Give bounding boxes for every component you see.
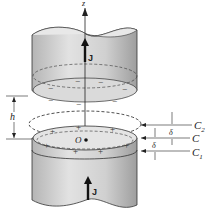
svg-text:−: − xyxy=(112,96,117,106)
svg-text:+: + xyxy=(98,146,103,156)
contour-labels: C2 C C1 δ δ xyxy=(141,112,205,161)
svg-text:−: − xyxy=(48,95,53,105)
svg-text:+: + xyxy=(76,122,81,132)
delta-lower-label: δ xyxy=(152,141,156,150)
diagram-canvas: − − − − − − − z J + + + + + + + O J xyxy=(0,0,210,217)
origin-point xyxy=(84,138,88,142)
svg-text:+: + xyxy=(124,140,129,150)
svg-text:+: + xyxy=(50,126,55,136)
current-label-lower: J xyxy=(92,187,97,197)
svg-text:−: − xyxy=(76,99,81,109)
contour-c1-label: C1 xyxy=(192,146,203,161)
gap-dimension: h xyxy=(6,96,32,139)
svg-text:−: − xyxy=(75,76,80,86)
origin-label: O xyxy=(75,135,82,145)
z-axis-label: z xyxy=(81,0,86,8)
current-label-upper: J xyxy=(88,53,93,63)
delta-upper-label: δ xyxy=(169,128,173,137)
svg-text:−: − xyxy=(98,77,103,87)
svg-text:−: − xyxy=(48,83,53,93)
svg-text:+: + xyxy=(110,124,115,134)
lower-cylinder xyxy=(32,126,137,207)
contour-c-label: C xyxy=(192,132,200,144)
svg-text:+: + xyxy=(44,140,49,150)
z-axis-arrowhead-icon xyxy=(82,8,88,16)
gap-label: h xyxy=(10,111,15,122)
svg-text:−: − xyxy=(122,84,127,94)
svg-text:+: + xyxy=(73,146,78,156)
